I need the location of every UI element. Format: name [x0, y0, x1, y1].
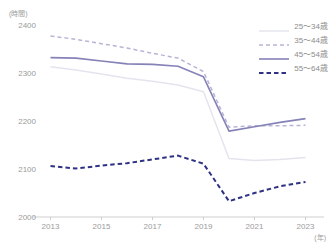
legend-item-45-54: 45〜54歳: [259, 48, 328, 58]
y-tick-label: 2100: [18, 165, 36, 174]
y-tick-label: 2000: [18, 213, 36, 222]
legend-item-35-44: 35〜44歳: [259, 34, 328, 44]
legend-label-25-34: 25〜34歳: [294, 20, 328, 31]
x-tick-label: 2019: [195, 222, 213, 231]
x-tick-label: 2013: [42, 222, 60, 231]
legend-label-45-54: 45〜54歳: [294, 48, 328, 59]
legend-line-swatch-45-54: [259, 49, 289, 57]
legend-line-swatch-35-44: [259, 35, 289, 43]
x-axis-unit-label: (年): [314, 232, 326, 242]
legend-line-swatch-55-64: [259, 63, 289, 71]
y-tick-label: 2200: [18, 117, 36, 126]
line-chart-figure: (時間) 20132015201720192021202320002100220…: [0, 0, 332, 250]
y-tick-label: 2300: [18, 69, 36, 78]
y-tick-label: 2400: [18, 21, 36, 30]
series-line-3-55-64: [51, 156, 306, 202]
x-tick-label: 2021: [246, 222, 264, 231]
x-tick-label: 2017: [144, 222, 162, 231]
legend-label-35-44: 35〜44歳: [294, 34, 328, 45]
legend-item-25-34: 25〜34歳: [259, 20, 328, 30]
legend-line-swatch-25-34: [259, 21, 289, 29]
x-tick-label: 2015: [93, 222, 111, 231]
legend-item-55-64: 55〜64歳: [259, 62, 328, 72]
x-tick-label: 2023: [297, 222, 315, 231]
legend-label-55-64: 55〜64歳: [294, 62, 328, 73]
series-line-0-25-34: [51, 67, 306, 161]
legend: 25〜34歳 35〜44歳 45〜54歳 55〜64歳: [259, 20, 328, 72]
